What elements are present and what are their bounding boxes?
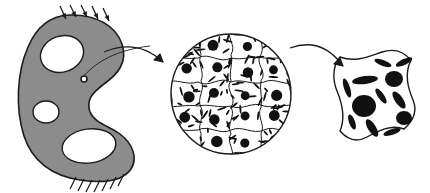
material-point-dot xyxy=(81,76,87,82)
cell-nucleus xyxy=(181,63,191,73)
cell-nucleus xyxy=(241,111,250,120)
cell-nucleus xyxy=(179,112,190,123)
cell-nucleus xyxy=(212,62,222,72)
inclusion-ellipse-7 xyxy=(363,117,380,138)
figure-canvas xyxy=(0,0,430,193)
unit-cell-group xyxy=(334,50,415,139)
cell-nucleus xyxy=(270,135,281,146)
cell-fiber xyxy=(247,156,256,161)
cell-fiber xyxy=(169,127,175,132)
cell-fiber xyxy=(174,130,183,134)
cell-nucleus xyxy=(208,40,219,51)
inclusion-ellipse-6 xyxy=(390,90,408,111)
rve-cell-tessellation xyxy=(165,25,330,187)
cell-fiber xyxy=(239,154,241,160)
cell-nucleus xyxy=(269,110,280,121)
cell-boundary-horizontal xyxy=(165,32,330,35)
unit-cell-inclusions xyxy=(341,55,413,138)
cell-fiber xyxy=(199,150,207,153)
cell-fiber xyxy=(294,95,300,97)
inclusion-ellipse-5 xyxy=(373,87,388,105)
inclusion-dot-1 xyxy=(385,71,403,87)
cell-fiber xyxy=(280,53,287,56)
cell-fiber xyxy=(165,112,173,116)
cell-fiber xyxy=(171,49,178,57)
cell-fiber xyxy=(166,69,172,74)
inclusion-ellipse-9 xyxy=(346,113,357,130)
inclusion-dot-2 xyxy=(396,111,412,125)
inclusion-ellipse-1 xyxy=(352,74,379,86)
cell-nucleus xyxy=(179,137,188,146)
cell-fiber xyxy=(250,25,256,33)
inclusion-ellipse-2 xyxy=(341,78,353,99)
cell-nucleus xyxy=(211,136,223,148)
macro-structure-group xyxy=(18,5,150,192)
cell-nucleus xyxy=(241,91,250,100)
cell-boundary-horizontal xyxy=(165,152,330,155)
cell-fiber xyxy=(214,29,220,34)
cell-nucleus xyxy=(271,90,282,101)
multiscale-homogenization-figure: A loaded macroscopic perforated structur… xyxy=(0,0,430,193)
cell-fiber xyxy=(176,55,180,61)
cell-nucleus xyxy=(269,65,278,74)
cell-fiber xyxy=(238,160,244,162)
cell-nucleus xyxy=(183,91,194,102)
inclusion-dot-large xyxy=(352,95,376,117)
rve-group xyxy=(165,25,330,187)
cell-nucleus xyxy=(243,42,252,51)
inclusion-ellipse-3 xyxy=(374,57,393,69)
cell-fiber xyxy=(171,132,181,135)
cell-nucleus xyxy=(209,114,220,125)
cell-nucleus xyxy=(240,138,249,147)
